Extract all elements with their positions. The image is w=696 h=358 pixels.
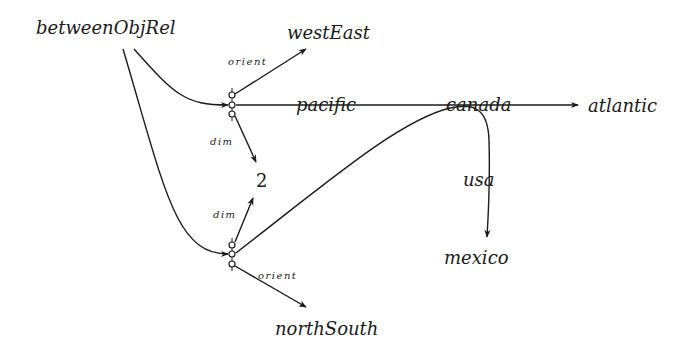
edge-label-orient-bottom: orient — [258, 270, 297, 281]
node-westeast: westEast — [287, 22, 371, 43]
node-atlantic: atlantic — [588, 95, 657, 116]
relation-diagram: betweenObjRel westEast pacific canada at… — [0, 0, 696, 358]
relation-node-2 — [229, 238, 235, 271]
node-canada: canada — [446, 94, 511, 115]
node-betweenobjrel: betweenObjRel — [36, 17, 176, 38]
node-usa: usa — [463, 169, 495, 190]
node-northsouth: northSouth — [275, 318, 378, 339]
edge-dim-bottom — [235, 198, 253, 242]
edge-label-orient-top: orient — [228, 56, 267, 67]
edge-root-to-node1 — [134, 49, 228, 105]
edge-dim-top — [235, 116, 256, 162]
edge-canada-usa-mexico — [236, 106, 489, 253]
node-mexico: mexico — [444, 247, 509, 268]
relation-node-1 — [229, 88, 235, 121]
node-pacific: pacific — [296, 94, 356, 115]
edge-label-dim-bottom: dim — [213, 209, 237, 220]
edge-root-to-node2 — [123, 49, 228, 254]
edge-label-dim-top: dim — [210, 136, 234, 147]
node-two: 2 — [256, 170, 267, 191]
